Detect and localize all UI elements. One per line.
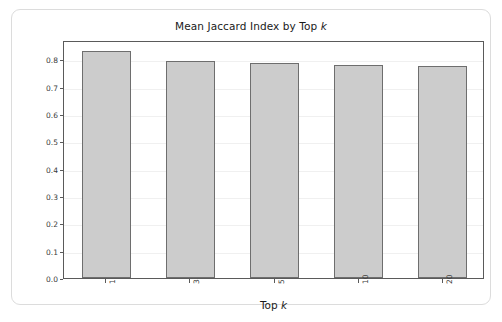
bar-series: [64, 42, 483, 278]
x-tick-mark: [105, 279, 106, 283]
y-tick-label: 0.4: [30, 165, 58, 174]
x-axis-title-text: Top: [260, 299, 281, 311]
plot-area: [63, 41, 484, 279]
x-tick-label: 10: [361, 274, 370, 284]
y-tick-label: 0.1: [30, 247, 58, 256]
x-tick-mark: [442, 279, 443, 283]
x-tick-label: 1: [108, 279, 117, 284]
x-tick-mark: [189, 279, 190, 283]
figure-card: Mean Jaccard Index by Top k Mean Jaccard…: [11, 9, 491, 305]
x-axis-title-italic-k: k: [281, 299, 287, 311]
y-tick-label: 0.7: [30, 83, 58, 92]
bar: [418, 66, 467, 278]
y-tick-label: 0.0: [30, 275, 58, 284]
y-tick-label: 0.2: [30, 220, 58, 229]
chart-title: Mean Jaccard Index by Top k: [12, 20, 490, 32]
y-tick-label: 0.3: [30, 192, 58, 201]
y-tick-label: 0.5: [30, 138, 58, 147]
x-tick-label: 20: [445, 274, 454, 284]
y-tick-label: 0.6: [30, 110, 58, 119]
y-tick-mark: [60, 279, 64, 280]
bar: [166, 61, 215, 278]
bar: [334, 65, 383, 278]
x-tick-mark: [274, 279, 275, 283]
bar: [82, 51, 131, 278]
bar: [250, 63, 299, 278]
chart-title-italic-k: k: [321, 20, 327, 32]
x-tick-mark: [358, 279, 359, 283]
x-tick-label: 3: [192, 279, 201, 284]
x-tick-label: 5: [277, 279, 286, 284]
chart-title-text: Mean Jaccard Index by Top: [175, 20, 321, 32]
x-axis-title: Top k: [63, 299, 484, 311]
y-tick-label: 0.8: [30, 56, 58, 65]
